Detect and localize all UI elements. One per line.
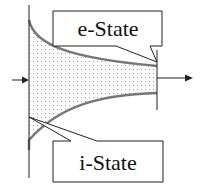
state-diagram: e-State i-State	[0, 0, 203, 184]
i-state-callout: i-State	[29, 117, 163, 182]
input-arrow-icon	[12, 77, 29, 84]
diagram-svg: e-State i-State	[0, 0, 203, 184]
e-state-label: e-State	[77, 16, 138, 41]
i-state-label: i-State	[79, 150, 136, 175]
output-arrow-icon	[157, 75, 193, 82]
